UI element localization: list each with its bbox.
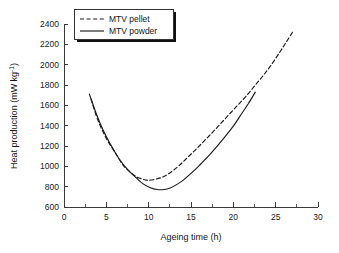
x-axis-title: Ageing time (h) [160, 232, 221, 242]
y-tick-label: 1000 [40, 161, 59, 171]
line-chart: 60080010001200140016001800200022002400 0… [0, 0, 339, 253]
y-tick-label: 1400 [40, 121, 59, 131]
x-tick-label: 15 [186, 212, 196, 222]
series-line-mtv-powder [89, 92, 255, 190]
x-axis-title-text: Ageing time (h) [160, 232, 221, 242]
y-tick-label: 800 [45, 182, 59, 192]
x-tick-label: 5 [104, 212, 109, 222]
y-tick-label: 600 [45, 202, 59, 212]
x-tick-label: 20 [229, 212, 239, 222]
chart-figure: 60080010001200140016001800200022002400 0… [0, 0, 339, 253]
y-tick-label: 1600 [40, 100, 59, 110]
y-tick-label: 1200 [40, 141, 59, 151]
legend[interactable]: MTV pellet MTV powder [74, 9, 176, 42]
legend-label-mtv-pellet: MTV pellet [109, 14, 150, 24]
y-tick-label: 1800 [40, 80, 59, 90]
data-series-group [89, 32, 292, 190]
x-tick-label: 10 [144, 212, 154, 222]
x-tick-label: 0 [62, 212, 67, 222]
y-axis-title-main: Heat production (mW kg [9, 72, 19, 169]
y-tick-label: 2200 [40, 39, 59, 49]
y-axis-title: Heat production (mW kg-1) [8, 63, 20, 169]
y-axis-title-text: Heat production (mW kg-1) [8, 63, 20, 169]
y-axis-title-tail: ) [9, 63, 19, 66]
x-tick-label: 30 [313, 212, 323, 222]
x-tick-label: 25 [271, 212, 281, 222]
y-tick-label: 2000 [40, 60, 59, 70]
y-tick-label: 2400 [40, 19, 59, 29]
x-axis-ticks: 051015202530 [62, 202, 323, 222]
legend-label-mtv-powder: MTV powder [109, 26, 157, 36]
series-line-mtv-pellet [91, 32, 293, 180]
